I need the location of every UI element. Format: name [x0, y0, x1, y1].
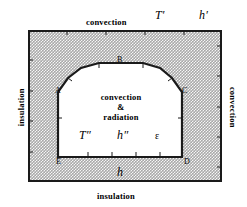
node-label-e: E	[56, 158, 61, 166]
bottom-boundary-condition-label: insulation	[97, 192, 135, 201]
cavity-mode-line-2: &	[85, 103, 157, 112]
cavity-mode-line-3: radiation	[85, 113, 157, 122]
cavity-emissivity-symbol: ε	[155, 131, 159, 141]
left-boundary-condition-label: insulation	[17, 79, 26, 135]
node-label-c: C	[182, 87, 188, 95]
right-boundary-condition-label: convection	[229, 78, 238, 136]
cavity-heat-transfer-coefficient-symbol: h″	[117, 129, 128, 141]
node-label-d: D	[184, 158, 190, 166]
bottom-heat-transfer-coefficient-symbol: h	[117, 166, 123, 178]
node-label-a: A	[55, 87, 61, 95]
top-boundary-condition-label: convection	[86, 18, 127, 27]
thermal-boundary-diagram: convection T′ h′ h insulation insulation…	[0, 0, 247, 207]
cavity-temperature-symbol: T″	[79, 129, 91, 141]
top-heat-transfer-coefficient-symbol: h′	[199, 9, 208, 21]
top-temperature-symbol: T′	[155, 9, 165, 21]
node-label-b: B	[117, 56, 123, 64]
cavity-mode-line-1: convection	[85, 93, 157, 102]
